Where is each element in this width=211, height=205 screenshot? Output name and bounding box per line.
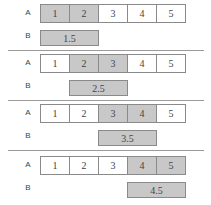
average-box: 2.5 (69, 80, 128, 96)
cell-2: 2 (69, 104, 99, 123)
row-a-label: A (23, 160, 33, 169)
cell-2: 2 (69, 156, 99, 175)
cell-4: 4 (127, 156, 157, 175)
cell-5: 5 (156, 156, 186, 175)
panel-4: AB123454.5 (0, 152, 211, 202)
average-box: 3.5 (98, 130, 157, 146)
panel-1: AB123451.5 (0, 0, 211, 50)
average-box: 4.5 (127, 182, 186, 198)
row-b-label: B (23, 183, 33, 192)
row-a-cells: 12345 (40, 104, 186, 122)
cell-3: 3 (98, 4, 128, 23)
cell-4: 4 (127, 104, 157, 123)
cell-5: 5 (156, 104, 186, 123)
cell-3: 3 (98, 156, 128, 175)
cell-3: 3 (98, 104, 128, 123)
row-a-cells: 12345 (40, 156, 186, 174)
cell-5: 5 (156, 54, 186, 73)
row-a-label: A (23, 58, 33, 67)
row-b-label: B (23, 31, 33, 40)
cell-5: 5 (156, 4, 186, 23)
cell-4: 4 (127, 54, 157, 73)
cell-1: 1 (40, 104, 70, 123)
row-b-label: B (23, 131, 33, 140)
row-a-cells: 12345 (40, 4, 186, 22)
cell-1: 1 (40, 4, 70, 23)
cell-2: 2 (69, 4, 99, 23)
row-a-cells: 12345 (40, 54, 186, 72)
cell-3: 3 (98, 54, 128, 73)
cell-1: 1 (40, 54, 70, 73)
cell-2: 2 (69, 54, 99, 73)
panel-2: AB123452.5 (0, 50, 211, 100)
row-a-label: A (23, 108, 33, 117)
panel-3: AB123453.5 (0, 100, 211, 150)
row-a-label: A (23, 8, 33, 17)
cell-1: 1 (40, 156, 70, 175)
cell-4: 4 (127, 4, 157, 23)
row-b-label: B (23, 81, 33, 90)
average-box: 1.5 (40, 30, 99, 46)
divider (8, 150, 204, 151)
